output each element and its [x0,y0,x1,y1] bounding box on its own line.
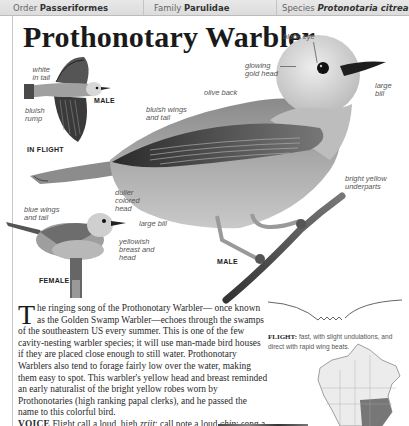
voice-call-flight: zriit [140,419,155,426]
label-black-eye: black eye [283,33,315,41]
drop-cap: T [18,304,35,326]
label-large-bill-male: large bill [375,82,397,98]
flight-note: FLIGHT: fast, with slight undulations, a… [268,332,408,351]
label-glowing-gold-head: glowing gold head [245,62,285,78]
description-intro: he ringing song of the Prothonotary Warb… [18,303,268,419]
label-olive-back: olive back [204,89,237,97]
label-bluish-wings-and-tail: bluish wings and tail [146,106,192,122]
caption-in-flight: IN FLIGHT [27,146,64,153]
voice-label: VOICE [18,419,50,426]
label-large-bill-female: large bill [139,220,167,228]
label-duller-colored-head: duller colored head [115,189,139,213]
label-blue-wings-and-tail: blue wings and tail [24,206,64,222]
label-bluish-rump: bluish rump [25,107,47,123]
caption-male: MALE [217,258,238,265]
leader-line [280,66,296,67]
species-description: T he ringing song of the Prothonotary Wa… [18,303,373,426]
flight-label: FLIGHT: [268,333,297,341]
label-bright-yellow-underparts: bright yellow underparts [345,175,395,191]
label-white-in-tail: white in tail [30,66,50,82]
label-yellowish-breast-and-head: yellowish breast and head [119,238,171,262]
caption-in-flight-male: MALE [94,97,115,104]
voice-text: ; call note a loud [155,419,220,426]
female-bird-icon [6,213,126,298]
voice-text: Flight call a loud, high [52,419,140,426]
caption-female: FEMALE [39,277,70,284]
